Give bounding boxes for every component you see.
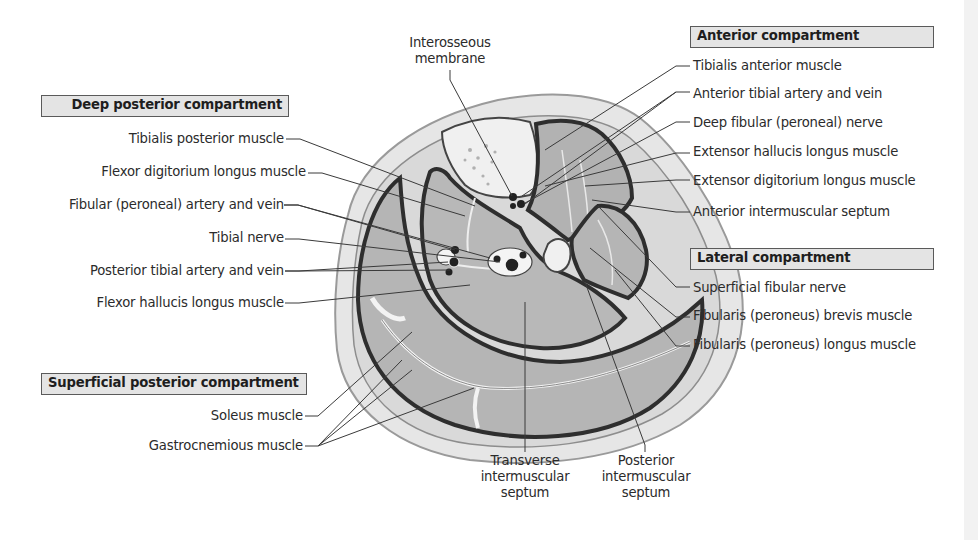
label-deep-fibular-nerve: Deep fibular (peroneal) nerve bbox=[693, 115, 883, 131]
label-flexor-digitorum-longus: Flexor digitorium longus muscle bbox=[101, 164, 306, 180]
label-superficial-fibular-nerve: Superficial fibular nerve bbox=[693, 280, 846, 296]
heading-lateral-compartment: Lateral compartment bbox=[690, 248, 934, 270]
label-extensor-hallucis-longus: Extensor hallucis longus muscle bbox=[693, 144, 898, 160]
label-flexor-hallucis-longus: Flexor hallucis longus muscle bbox=[97, 295, 285, 311]
label-soleus-muscle: Soleus muscle bbox=[211, 408, 303, 424]
label-interosseous-membrane: Interosseous membrane bbox=[398, 35, 502, 67]
label-tibialis-anterior: Tibialis anterior muscle bbox=[693, 58, 842, 74]
label-fibular-artery-vein: Fibular (peroneal) artery and vein bbox=[69, 197, 284, 213]
heading-superficial-posterior-compartment: Superficial posterior compartment bbox=[41, 373, 307, 395]
label-tibialis-posterior: Tibialis posterior muscle bbox=[129, 131, 284, 147]
label-extensor-digitorum-longus: Extensor digitorium longus muscle bbox=[693, 173, 916, 189]
label-anterior-intermuscular-septum: Anterior intermuscular septum bbox=[693, 204, 890, 220]
label-tibial-nerve: Tibial nerve bbox=[209, 230, 284, 246]
fibular-vessels-tibial-nerve bbox=[488, 248, 532, 276]
label-posterior-intermuscular-septum: Posterior intermuscular septum bbox=[590, 453, 702, 501]
leg-cross-section-diagram: Interosseous membrane Deep posterior com… bbox=[0, 0, 978, 540]
label-transverse-intermuscular-septum: Transverse intermuscular septum bbox=[465, 453, 585, 501]
fibula-bone bbox=[544, 239, 571, 272]
label-gastrocnemius-muscle: Gastrocnemious muscle bbox=[149, 438, 303, 454]
label-anterior-tibial-artery-vein: Anterior tibial artery and vein bbox=[693, 86, 882, 102]
label-fibularis-brevis: Fibularis (peroneus) brevis muscle bbox=[693, 308, 912, 324]
heading-anterior-compartment: Anterior compartment bbox=[690, 26, 934, 48]
heading-deep-posterior-compartment: Deep posterior compartment bbox=[41, 95, 289, 117]
label-fibularis-longus: Fibularis (peroneus) longus muscle bbox=[693, 337, 916, 353]
label-posterior-tibial-artery-vein: Posterior tibial artery and vein bbox=[90, 263, 284, 279]
page-edge bbox=[964, 0, 978, 540]
